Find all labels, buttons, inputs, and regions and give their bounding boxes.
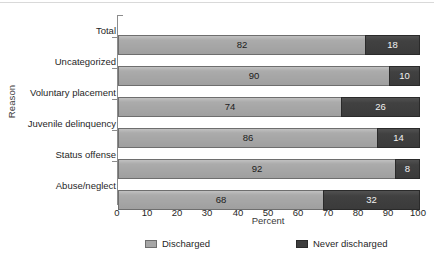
legend-label: Never discharged [313,238,387,249]
category-label-status-offense: Status offense [0,149,116,160]
legend-swatch-icon [296,240,308,248]
y-minor-tick [112,99,117,100]
category-label-juvenile-delinquency: Juvenile delinquency [0,118,116,129]
chart-legend: Discharged Never discharged [0,238,434,254]
plot-area: 0 10 20 30 40 50 60 70 80 90 100 82 18 9… [117,15,419,201]
y-minor-tick [112,130,117,131]
bar-segment-discharged[interactable]: 92 [118,159,396,179]
category-label-voluntary-placement: Voluntary placement [0,87,116,98]
bar-segment-never-discharged[interactable]: 18 [365,35,420,55]
bar-value-label: 86 [243,133,254,143]
bar-value-label: 74 [225,102,236,112]
category-label-abuse-neglect: Abuse/neglect [0,180,116,191]
bar-segment-discharged[interactable]: 74 [118,97,342,117]
category-label-total: Total [0,25,116,36]
bar-value-label: 68 [216,195,227,205]
bar-value-label: 32 [366,195,377,205]
legend-swatch-icon [145,240,157,248]
bar-segment-never-discharged[interactable]: 32 [323,190,420,210]
bar-segment-discharged[interactable]: 86 [118,128,378,148]
top-rule-divider [0,2,434,3]
bar-value-label: 26 [375,102,386,112]
legend-item-never-discharged[interactable]: Never discharged [296,238,387,249]
legend-label: Discharged [162,238,210,249]
category-label-uncategorized: Uncategorized [0,56,116,67]
y-minor-tick [112,161,117,162]
bar-value-label: 8 [405,164,410,174]
bar-segment-never-discharged[interactable]: 26 [341,97,420,117]
bar-value-label: 82 [237,40,248,50]
stacked-bar-chart: Reason Total Uncategorized Voluntary pla… [0,0,434,261]
x-axis-title: Percent [117,215,419,226]
bar-value-label: 14 [393,133,404,143]
bar-value-label: 18 [387,40,398,50]
bar-segment-never-discharged[interactable]: 10 [389,66,420,86]
bar-segment-discharged[interactable]: 68 [118,190,324,210]
legend-item-discharged[interactable]: Discharged [145,238,210,249]
y-minor-tick [112,68,117,69]
bar-value-label: 10 [399,71,410,81]
y-minor-tick [112,37,117,38]
y-axis-top-cap [117,15,123,16]
bar-segment-never-discharged[interactable]: 14 [377,128,420,148]
bar-segment-discharged[interactable]: 90 [118,66,390,86]
bar-segment-never-discharged[interactable]: 8 [395,159,420,179]
bar-value-label: 90 [249,71,260,81]
bar-value-label: 92 [252,164,263,174]
bar-segment-discharged[interactable]: 82 [118,35,366,55]
